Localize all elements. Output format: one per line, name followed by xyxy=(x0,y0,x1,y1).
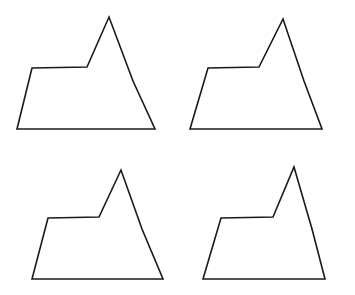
mountain-polygon-bottom-right xyxy=(203,167,325,279)
figure-canvas xyxy=(0,0,355,295)
shapes-figure xyxy=(0,0,355,295)
mountain-polygon-top-right xyxy=(190,19,322,129)
mountain-polygon-bottom-left xyxy=(32,170,163,279)
mountain-polygon-top-left xyxy=(17,17,155,129)
